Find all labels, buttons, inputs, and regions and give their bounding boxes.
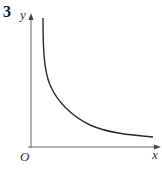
reciprocal-curve xyxy=(43,18,153,137)
x-axis-label: x xyxy=(152,147,158,163)
y-axis-label: y xyxy=(20,7,26,23)
y-axis-arrow-icon xyxy=(29,13,34,20)
origin-label: O xyxy=(20,149,29,165)
